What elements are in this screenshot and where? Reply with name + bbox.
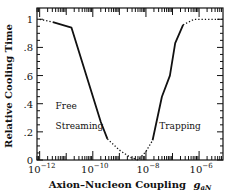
y-tick-label: .2	[23, 127, 33, 138]
curve-trapping-dotted	[183, 19, 223, 25]
x-axis-label: Axion–Nucleon Coupling gaN	[48, 179, 212, 192]
x-axis-ticks: 10−1210−1010−810−6	[28, 8, 222, 175]
y-tick-label: 1	[27, 14, 33, 25]
annotations: FreeStreamingTrapping	[56, 101, 201, 131]
x-tick-label: 10−10	[81, 162, 109, 175]
annotation-trapping: Trapping	[159, 121, 201, 131]
x-tick-label: 10−6	[190, 162, 214, 175]
x-tick-label: 10−8	[136, 162, 159, 175]
x-axis-label-symbol: g	[193, 179, 200, 190]
y-axis-ticks: 0.2.4.6.81	[23, 14, 223, 166]
data-curves	[40, 19, 223, 160]
x-axis-label-subscript: aN	[200, 183, 212, 192]
plot-border	[37, 8, 223, 160]
annotation-streaming: Streaming	[56, 121, 104, 131]
x-axis-label-text: Axion–Nucleon Coupling	[48, 179, 186, 190]
y-axis-label: Relative Cooling Time	[3, 24, 14, 148]
plot-frame	[37, 8, 223, 160]
annotation-free: Free	[56, 101, 77, 111]
x-tick-label: 10−12	[28, 162, 56, 175]
y-tick-label: .6	[23, 71, 33, 82]
y-tick-label: .4	[23, 99, 33, 110]
y-tick-label: .8	[23, 42, 33, 53]
cooling-time-chart: 0.2.4.6.81 10−1210−1010−810−6 FreeStream…	[0, 0, 230, 194]
